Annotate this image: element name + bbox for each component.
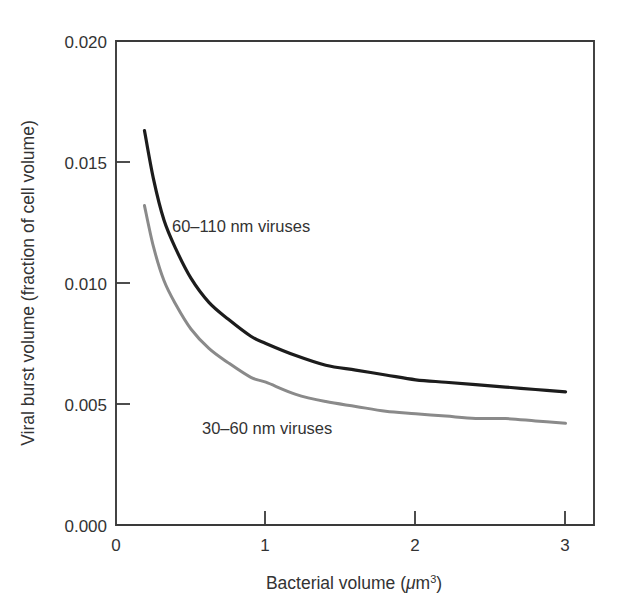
x-axis-title-m: m	[416, 573, 431, 593]
data-series-group	[144, 131, 565, 424]
x-tick-label-2: 2	[410, 536, 419, 555]
x-axis-title-main: Bacterial volume (	[266, 573, 406, 593]
series-annotation-60-110nm: 60–110 nm viruses	[172, 217, 310, 235]
series-line-30-60nm	[144, 206, 565, 424]
x-axis-title-close: )	[436, 573, 442, 593]
x-axis-title: Bacterial volume (μm3)	[266, 573, 442, 593]
y-axis-title: Viral burst volume (fraction of cell vol…	[18, 120, 38, 446]
y-tick-label-0000: 0.000	[64, 517, 107, 536]
chart-canvas: 0.020 0.015 0.010 0.005 0.000 0 1 2 3 60…	[0, 0, 621, 609]
y-axis-ticks	[116, 41, 130, 525]
y-tick-label-0015: 0.015	[64, 154, 107, 173]
x-tick-label-3: 3	[560, 536, 569, 555]
x-tick-label-0: 0	[111, 536, 120, 555]
series-line-60-110nm	[144, 131, 565, 392]
plot-frame	[116, 41, 594, 525]
x-axis-ticks	[265, 511, 565, 525]
chart-figure: 0.020 0.015 0.010 0.005 0.000 0 1 2 3 60…	[0, 0, 621, 609]
x-tick-label-1: 1	[260, 536, 269, 555]
y-tick-label-0005: 0.005	[64, 396, 107, 415]
y-tick-label-0010: 0.010	[64, 275, 107, 294]
series-annotation-30-60nm: 30–60 nm viruses	[202, 419, 332, 437]
x-axis-title-mu: μ	[405, 573, 416, 593]
y-tick-label-0020: 0.020	[64, 33, 107, 52]
